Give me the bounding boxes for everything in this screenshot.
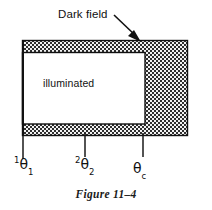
theta-1-subscript: 1 [28, 167, 33, 177]
theta-c-subscript: c [142, 171, 147, 181]
illuminated-label: illuminated [43, 78, 94, 89]
theta-1-superscript: 1 [14, 155, 19, 165]
theta-2-subscript: 2 [89, 167, 94, 177]
theta-2-superscript: 2 [75, 155, 80, 165]
figure-caption: Figure 11–4 [0, 188, 212, 200]
diagram-canvas [0, 0, 212, 210]
dark-field-pointer-arrow [114, 15, 141, 42]
axis-label-theta-2: 2θ2 [75, 156, 94, 175]
axis-label-theta-c: θc [133, 160, 146, 179]
theta-c-symbol: θ [133, 160, 142, 176]
figure-11-4: Dark field illuminated 1θ1 2θ2 θc Figure… [0, 0, 212, 210]
theta-2-symbol: θ [80, 156, 89, 172]
axis-label-theta-1: 1θ1 [14, 156, 33, 175]
dark-field-label: Dark field [58, 9, 108, 21]
theta-1-symbol: θ [19, 156, 28, 172]
